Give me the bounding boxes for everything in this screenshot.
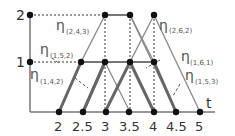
svg-text:(1,5,2): (1,5,2) [50,52,74,60]
x-tick-4: 4 [149,119,157,134]
x-tick-2-5: 2.5 [72,119,93,134]
curve-lines-thick [59,62,176,112]
svg-text:η: η [159,17,168,33]
x-tick-4-5: 4.5 [166,119,187,134]
label-eta-2-6-2: η (2,6,2) [159,17,193,35]
svg-text:(2,4,3): (2,4,3) [66,28,90,36]
label-eta-1-4-2: η (1,4,2) [30,66,64,86]
svg-text:η: η [185,67,194,83]
x-tick-3-5: 3.5 [119,119,140,134]
label-eta-1-5-2: η (1,5,2) [40,41,74,60]
svg-text:η: η [40,41,49,57]
x-tick-5: 5 [195,119,203,134]
svg-text:η: η [30,66,39,82]
svg-text:(1,6,1): (1,6,1) [190,59,214,67]
x-axis-label: t [206,95,212,111]
svg-text:(1,4,2): (1,4,2) [40,78,64,86]
svg-text:η: η [56,17,65,33]
label-eta-1-6-1: η (1,6,1) [181,48,214,67]
label-eta-2-4-3: η (2,4,3) [56,17,90,36]
svg-text:η: η [181,48,190,64]
label-eta-1-5-3: η (1,5,3) [185,67,219,86]
svg-text:(1,5,3): (1,5,3) [195,78,219,86]
x-tick-2: 2 [54,119,62,134]
y-tick-1: 1 [16,54,25,70]
guide-lines [30,15,154,112]
x-tick-3: 3 [101,119,109,134]
y-tick-2: 2 [16,7,25,23]
svg-text:(2,6,2): (2,6,2) [169,27,193,35]
diagram-canvas: 2 1 2 2.5 3 3.5 4 4.5 5 t η (2,4,3) η (2… [0,0,235,136]
